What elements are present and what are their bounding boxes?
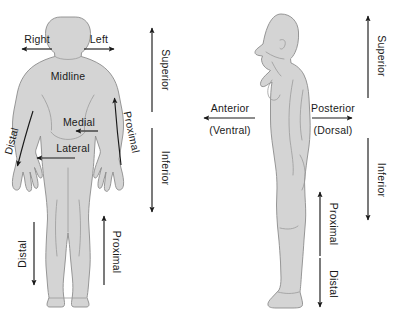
label-distal-leg-lateral: Distal — [328, 270, 340, 297]
label-superior-lateral: Superior — [376, 35, 388, 77]
label-left: Left — [90, 33, 108, 45]
anterior-body-outline — [12, 17, 123, 307]
label-midline: Midline — [51, 70, 86, 82]
label-inferior-anterior: Inferior — [160, 151, 172, 186]
label-lateral: Lateral — [56, 142, 90, 154]
label-inferior-lateral: Inferior — [376, 163, 388, 198]
lateral-body-outline — [255, 14, 310, 308]
anterior-body-silhouette — [12, 17, 123, 307]
lateral-body-silhouette — [255, 14, 310, 308]
label-medial: Medial — [63, 116, 95, 128]
label-ventral: (Ventral) — [209, 124, 250, 136]
label-proximal-leg-anterior: Proximal — [111, 231, 123, 273]
label-distal-leg-anterior: Distal — [16, 240, 28, 267]
label-superior-anterior: Superior — [160, 49, 172, 91]
label-right: Right — [24, 33, 50, 45]
label-dorsal: (Dorsal) — [314, 124, 353, 136]
figure-canvas: Right Left Midline Medial Lateral Distal… — [0, 0, 394, 322]
label-posterior: Posterior — [311, 102, 355, 114]
label-anterior: Anterior — [211, 102, 250, 114]
label-proximal-leg-lateral: Proximal — [328, 203, 340, 245]
anatomical-directional-terms-figure: Right Left Midline Medial Lateral Distal… — [0, 0, 394, 322]
label-proximal-arm: Proximal — [122, 110, 143, 154]
